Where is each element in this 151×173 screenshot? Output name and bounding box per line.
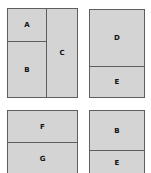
region-g: G <box>8 143 77 173</box>
region-label: C <box>59 49 64 57</box>
region-label: D <box>114 34 120 42</box>
region-label: F <box>40 123 45 131</box>
region-e: E <box>90 67 144 97</box>
region-b: B <box>90 111 144 151</box>
layout-panel-2: D E <box>89 9 145 98</box>
region-b: B <box>8 42 47 97</box>
layout-panel-3: F G <box>7 110 78 173</box>
region-label: E <box>115 78 120 86</box>
region-d: D <box>90 10 144 67</box>
region-e: E <box>90 151 144 173</box>
region-label: G <box>40 155 46 163</box>
region-label: E <box>115 159 120 167</box>
region-label: B <box>114 127 119 135</box>
region-label: B <box>24 66 29 74</box>
layout-panel-4: B E <box>89 110 145 173</box>
region-c: C <box>47 9 77 97</box>
region-a: A <box>8 9 47 42</box>
region-label: A <box>24 21 29 29</box>
region-f: F <box>8 111 77 143</box>
layout-panel-1: A B C <box>7 8 78 98</box>
